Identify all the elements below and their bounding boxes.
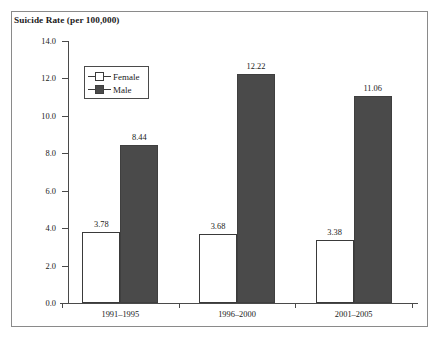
legend-label-female: Female bbox=[113, 72, 140, 82]
chart-legend: Female Male bbox=[84, 66, 149, 99]
chart-title: Suicide Rate (per 100,000) bbox=[14, 15, 120, 25]
legend-swatch-female-icon bbox=[88, 71, 111, 82]
figure-canvas: Suicide Rate (per 100,000) 14.012.010.08… bbox=[0, 0, 445, 339]
legend-item-male: Male bbox=[88, 83, 132, 96]
legend-item-female: Female bbox=[88, 70, 140, 83]
figure-border bbox=[11, 11, 428, 327]
legend-swatch-male-icon bbox=[88, 84, 111, 95]
legend-label-male: Male bbox=[113, 85, 132, 95]
